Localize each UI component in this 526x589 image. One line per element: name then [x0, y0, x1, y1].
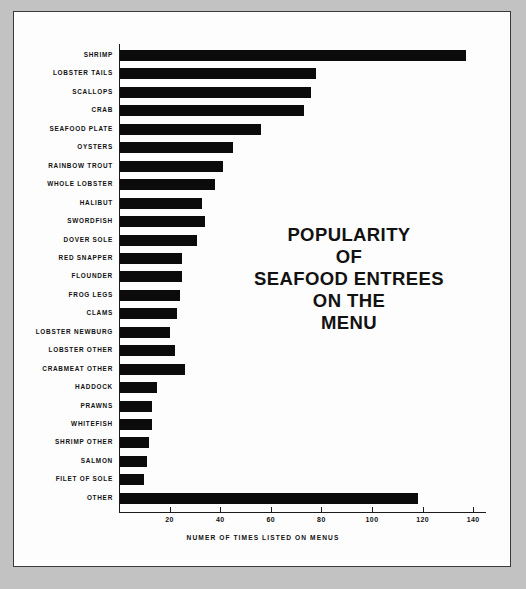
bar-category-label: CRABMEAT OTHER — [14, 362, 113, 375]
bar — [119, 456, 147, 467]
bar-category-label: SCALLOPS — [14, 85, 113, 98]
bar — [119, 235, 197, 246]
chart-title: POPULARITY OF SEAFOOD ENTREES ON THE MEN… — [229, 224, 469, 334]
bar-category-label: SWORDFISH — [14, 214, 113, 227]
bar — [119, 216, 205, 227]
y-axis-line — [119, 44, 120, 513]
bar — [119, 68, 316, 79]
chart-title-line-3: SEAFOOD ENTREES — [229, 268, 469, 290]
bar — [119, 142, 233, 153]
bar-category-label: LOBSTER NEWBURG — [14, 325, 113, 338]
bar — [119, 493, 418, 504]
bar-category-label: SHRIMP OTHER — [14, 435, 113, 448]
bar-category-label: HADDOCK — [14, 380, 113, 393]
bar — [119, 437, 149, 448]
x-axis-tick-label: 60 — [256, 516, 286, 523]
x-axis-tick-label: 80 — [306, 516, 336, 523]
x-axis-tick — [473, 507, 474, 513]
bar-category-label: FROG LEGS — [14, 288, 113, 301]
bar-category-label: FLOUNDER — [14, 269, 113, 282]
bar-category-label: RED SNAPPER — [14, 251, 113, 264]
bar-category-label: SHRIMP — [14, 48, 113, 61]
bar-category-label: DOVER SOLE — [14, 233, 113, 246]
bar — [119, 290, 180, 301]
bar-category-label: SALMON — [14, 454, 113, 467]
bar — [119, 179, 215, 190]
x-axis-tick-label: 40 — [205, 516, 235, 523]
bar-category-label: WHITEFISH — [14, 417, 113, 430]
x-axis-tick-label: 140 — [458, 516, 488, 523]
x-axis-tick-label: 100 — [357, 516, 387, 523]
bar-category-label: FILET OF SOLE — [14, 472, 113, 485]
bar-category-label: WHOLE LOBSTER — [14, 177, 113, 190]
x-axis-tick — [170, 507, 171, 513]
bar — [119, 124, 261, 135]
chart-title-line-1: POPULARITY — [229, 224, 469, 246]
bar-category-label: OTHER — [14, 491, 113, 504]
bar-category-label: LOBSTER TAILS — [14, 66, 113, 79]
bar — [119, 382, 157, 393]
bar — [119, 327, 170, 338]
x-axis-tick — [271, 507, 272, 513]
bar-category-label: PRAWNS — [14, 399, 113, 412]
bar-chart: SHRIMPLOBSTER TAILSSCALLOPSCRABSEAFOOD P… — [14, 12, 512, 568]
bar — [119, 419, 152, 430]
x-axis-tick — [372, 507, 373, 513]
bar — [119, 105, 304, 116]
chart-title-line-4: ON THE — [229, 290, 469, 312]
bar — [119, 364, 185, 375]
chart-paper: SHRIMPLOBSTER TAILSSCALLOPSCRABSEAFOOD P… — [13, 11, 511, 567]
bar-category-label: CLAMS — [14, 306, 113, 319]
bar — [119, 401, 152, 412]
x-axis-tick-label: 120 — [408, 516, 438, 523]
x-axis-tick — [423, 507, 424, 513]
x-axis-tick — [321, 507, 322, 513]
bar-category-label: SEAFOOD PLATE — [14, 122, 113, 135]
x-axis-tick-label: 20 — [155, 516, 185, 523]
bar — [119, 308, 177, 319]
bar — [119, 345, 175, 356]
bar-category-label: LOBSTER OTHER — [14, 343, 113, 356]
bar — [119, 50, 466, 61]
chart-title-line-2: OF — [229, 246, 469, 268]
screenshot-page: SHRIMPLOBSTER TAILSSCALLOPSCRABSEAFOOD P… — [0, 0, 526, 589]
bar — [119, 271, 182, 282]
bar-category-label: CRAB — [14, 103, 113, 116]
x-axis-tick — [220, 507, 221, 513]
bar — [119, 474, 144, 485]
bar-category-label: RAINBOW TROUT — [14, 159, 113, 172]
chart-title-line-5: MENU — [229, 312, 469, 334]
bar — [119, 87, 311, 98]
bar-row: OTHER — [14, 491, 512, 512]
bar — [119, 253, 182, 264]
x-axis-line — [119, 512, 486, 513]
bar-category-label: OYSTERS — [14, 140, 113, 153]
bar — [119, 161, 223, 172]
x-axis-title: NUMER OF TIMES LISTED ON MENUS — [14, 534, 512, 541]
bar-category-label: HALIBUT — [14, 196, 113, 209]
bar — [119, 198, 202, 209]
